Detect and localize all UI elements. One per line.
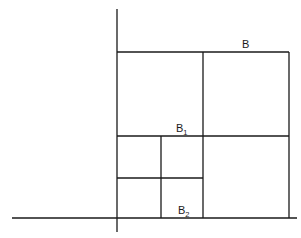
label-b1: B1	[176, 122, 188, 137]
label-b: B	[242, 38, 249, 50]
label-b2: B2	[178, 204, 190, 219]
quadtree-diagram: B B1 B2	[0, 0, 301, 238]
